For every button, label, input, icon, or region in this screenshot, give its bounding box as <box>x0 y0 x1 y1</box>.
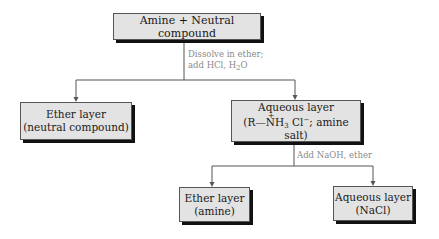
start-node-box: Amine + Neutral compound <box>113 13 261 40</box>
ether-layer-neutral-box: Ether layer (neutral compound) <box>20 102 132 140</box>
ether2-line2: (amine) <box>194 205 235 218</box>
step1-line1: Dissolve in ether; <box>188 49 263 60</box>
step2-label: Add NaOH, ether <box>297 150 372 160</box>
step1-note: Dissolve in ether; add HCl, H2O <box>188 49 263 71</box>
step1-line2: add HCl, H2O <box>188 60 263 71</box>
aqueous-layer-amine-salt-box: Aqueous layer (R—+NH3 Cl−; amine salt) <box>231 100 361 142</box>
ether1-line2: (neutral compound) <box>23 121 129 134</box>
aqueous-layer-nacl-box: Aqueous layer (NaCl) <box>333 186 413 221</box>
ether1-line1: Ether layer <box>46 108 106 121</box>
ether2-line1: Ether layer <box>184 192 244 205</box>
aqueous1-formula: (R—+NH3 Cl−; amine salt) <box>232 116 360 142</box>
step2-note: Add NaOH, ether <box>297 150 372 161</box>
aqueous2-line1: Aqueous layer <box>335 191 411 204</box>
start-node-label: Amine + Neutral compound <box>114 14 260 40</box>
aqueous2-line2: (NaCl) <box>355 204 390 217</box>
ether-layer-amine-box: Ether layer (amine) <box>179 187 250 222</box>
